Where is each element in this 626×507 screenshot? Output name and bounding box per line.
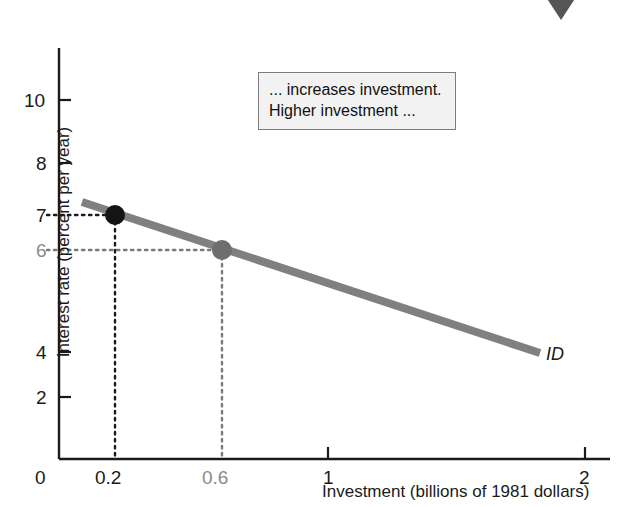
y-tick-label-8: 8 [36,154,47,173]
y-tick-label-10: 10 [24,91,45,110]
investment-demand-curve [82,202,540,353]
x-axis-title: Investment (billions of 1981 dollars) [322,482,589,502]
y-axis-title: Interest rate (percent per year) [54,92,74,392]
annotation-line-1: ... increases investment. [269,79,445,100]
curve-label-id: ID [546,344,564,365]
x-tick-label-0-2: 0.2 [95,468,121,487]
x-tick-label-0-6: 0.6 [202,468,228,487]
new-equilibrium-point [212,240,232,260]
annotation-callout-box: ... increases investment. Higher investm… [258,72,456,130]
y-tick-label-6: 6 [36,241,47,260]
initial-equilibrium-point [105,205,125,225]
y-tick-label-7: 7 [36,206,47,225]
y-tick-label-2: 2 [36,388,47,407]
x-tick-label-0: 0 [35,468,46,487]
investment-demand-chart: 10 8 7 6 4 2 0 0.2 0.6 1 2 Interest rate… [0,0,626,507]
annotation-line-2: Higher investment ... [269,100,445,121]
y-tick-label-4: 4 [36,343,47,362]
